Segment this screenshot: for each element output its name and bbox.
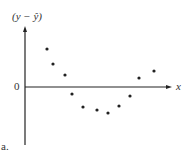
y-axis-label: (y − ŷ) [12,10,42,22]
data-point [70,92,73,95]
y-axis-arrow-icon [23,26,27,32]
data-point [137,76,140,79]
zero-tick-label: 0 [14,80,20,92]
data-point [81,105,84,108]
data-point [152,69,155,72]
residual-plot [0,0,187,155]
data-point [63,73,66,76]
data-point [106,111,109,114]
data-points [45,47,155,114]
data-point [95,108,98,111]
x-axis-arrow-icon [166,85,172,89]
x-axis-label: x [176,80,181,92]
data-point [51,62,54,65]
panel-label: a. [1,140,9,152]
data-point [117,104,120,107]
data-point [45,47,48,50]
data-point [128,94,131,97]
